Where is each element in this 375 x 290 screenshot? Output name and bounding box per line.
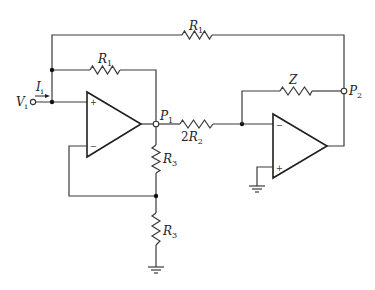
resistor-r3-upper (152, 145, 160, 173)
junction-dot-r3 (154, 194, 158, 198)
ground-icon-2 (249, 186, 265, 192)
opamp-1-minus: − (90, 142, 97, 151)
label-p2: P2 (348, 84, 362, 100)
resistor-r1-inner (90, 66, 120, 74)
junction-dot-r1 (50, 68, 54, 72)
resistor-2r2 (180, 120, 213, 128)
junction-dot-input (50, 100, 54, 104)
opamp-1-plus: + (90, 98, 97, 107)
opamp-2-minus: − (276, 121, 283, 130)
opamp-2-plus: + (276, 164, 283, 173)
label-p1: P1 (159, 109, 173, 125)
wire-feedback-loop (69, 146, 156, 196)
label-r3-lower: R3 (162, 224, 177, 240)
label-2r2: 2R2 (181, 130, 203, 146)
label-z: Z (288, 73, 298, 87)
node-p2 (341, 88, 347, 94)
wire-opamp2-plus-ground (257, 167, 273, 186)
label-r1-inner: R1 (97, 52, 112, 68)
label-r3-upper: R3 (162, 152, 177, 168)
label-vi: Vi (16, 95, 28, 111)
label-ii: Ii (35, 80, 44, 96)
label-r1-outer: R1 (188, 19, 203, 35)
ground-icon (148, 267, 164, 273)
node-p1 (153, 121, 159, 127)
resistor-r3-lower (152, 213, 160, 245)
terminal-vi (30, 99, 35, 104)
circuit-diagram: R1 R1 Vi Ii + − P1 R3 R3 2R2 (0, 0, 375, 290)
impedance-z (280, 87, 312, 95)
